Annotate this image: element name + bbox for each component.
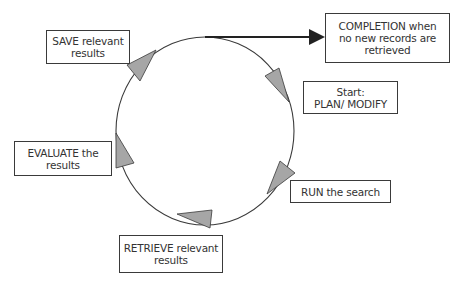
node-completion-line-2: no new records are [339,32,436,44]
node-start-plan-modify: Start: PLAN/ MODIFY [303,81,398,114]
arrow-to-start-icon [127,50,156,81]
node-save-line-1: SAVE relevant [52,35,123,47]
node-evaluate-line-2: results [46,159,80,171]
node-completion-line-3: retrieved [365,44,411,56]
arrow-to-save-icon [116,133,134,168]
exit-arrowhead-icon [309,29,325,45]
node-completion-line-1: COMPLETION when [339,20,437,32]
node-save-results: SAVE relevant results [46,30,130,64]
node-completion: COMPLETION when no new records are retri… [325,13,450,63]
node-start-line-1: Start: [337,86,365,98]
node-run-line-1: RUN the search [301,186,380,198]
node-run-search: RUN the search [290,180,391,203]
node-retrieve-line-1: RETRIEVE relevant [124,242,218,254]
node-evaluate-results: EVALUATE the results [14,141,112,176]
node-retrieve-line-2: results [154,254,188,266]
node-retrieve-results: RETRIEVE relevant results [119,235,223,273]
node-evaluate-line-1: EVALUATE the [28,147,99,159]
arrow-to-evaluate-icon [177,210,212,228]
node-save-line-2: results [71,47,105,59]
node-start-line-2: PLAN/ MODIFY [314,98,387,110]
arrow-to-run-icon [265,68,289,102]
